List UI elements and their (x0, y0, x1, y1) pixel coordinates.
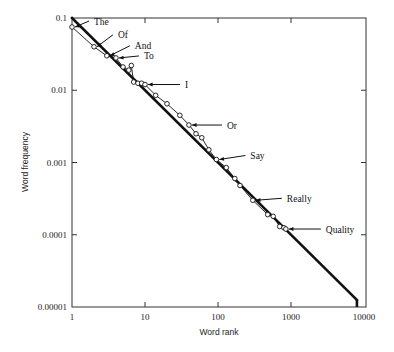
data-point-marker (194, 131, 199, 136)
y-tick-label: 0.00001 (38, 302, 67, 312)
data-point-marker (224, 165, 229, 170)
annotation-label-i: I (185, 80, 188, 90)
observed-frequency-series (70, 25, 288, 232)
annotation-label-really: Really (287, 194, 312, 204)
data-point-marker (265, 212, 270, 217)
annotation-label-or: Or (227, 121, 238, 131)
annotation-label-quality: Quality (326, 225, 355, 235)
x-tick-label: 10 (141, 312, 151, 322)
data-point-marker (238, 183, 243, 188)
data-point-marker (178, 113, 183, 118)
data-point-marker (92, 44, 97, 49)
annotation-label-of: Of (118, 30, 129, 40)
data-point-marker (121, 65, 126, 70)
data-point-marker (214, 157, 219, 162)
arrowhead-icon (110, 52, 115, 56)
y-tick-label: 0.0001 (42, 230, 67, 240)
annotation-label-to: To (144, 51, 154, 61)
data-point-marker (187, 123, 192, 128)
data-point-marker (70, 25, 75, 30)
data-point-marker (127, 68, 132, 73)
y-axis-title: Word frequency (20, 131, 30, 192)
annotation-label-the: The (94, 17, 109, 27)
data-point-marker (251, 198, 256, 203)
data-point-marker (165, 101, 170, 106)
word-annotations: TheOfAndToIOrSayReallyQuality (75, 17, 355, 235)
data-point-marker (200, 135, 205, 140)
data-point-marker (105, 53, 110, 58)
arrowhead-icon (289, 227, 294, 231)
arrowhead-icon (148, 83, 153, 87)
data-point-marker (143, 82, 148, 87)
data-point-marker (207, 147, 212, 152)
data-point-marker (233, 176, 238, 181)
annotation-label-say: Say (250, 151, 265, 161)
arrowhead-icon (192, 123, 197, 127)
x-tick-label: 1000 (282, 312, 301, 322)
x-tick-label: 10000 (353, 312, 376, 322)
arrowhead-icon (119, 56, 124, 60)
data-point-marker (114, 56, 119, 61)
zipf-chart: 1101001000100000.10.010.0010.00010.00001… (0, 0, 394, 352)
y-tick-label: 0.001 (47, 158, 67, 168)
y-tick-label: 0.01 (51, 85, 67, 95)
ideal-zipf-line (72, 18, 357, 307)
x-tick-label: 1 (70, 312, 75, 322)
y-tick-label: 0.1 (56, 13, 67, 23)
x-tick-label: 100 (211, 312, 225, 322)
data-point-marker (153, 93, 158, 98)
data-point-marker (284, 227, 289, 232)
axes: 1101001000100000.10.010.0010.00010.00001 (38, 13, 376, 322)
x-axis-title: Word rank (199, 327, 239, 337)
data-point-marker (271, 214, 276, 219)
data-point-marker (129, 63, 134, 68)
annotation-label-and: And (135, 41, 152, 51)
